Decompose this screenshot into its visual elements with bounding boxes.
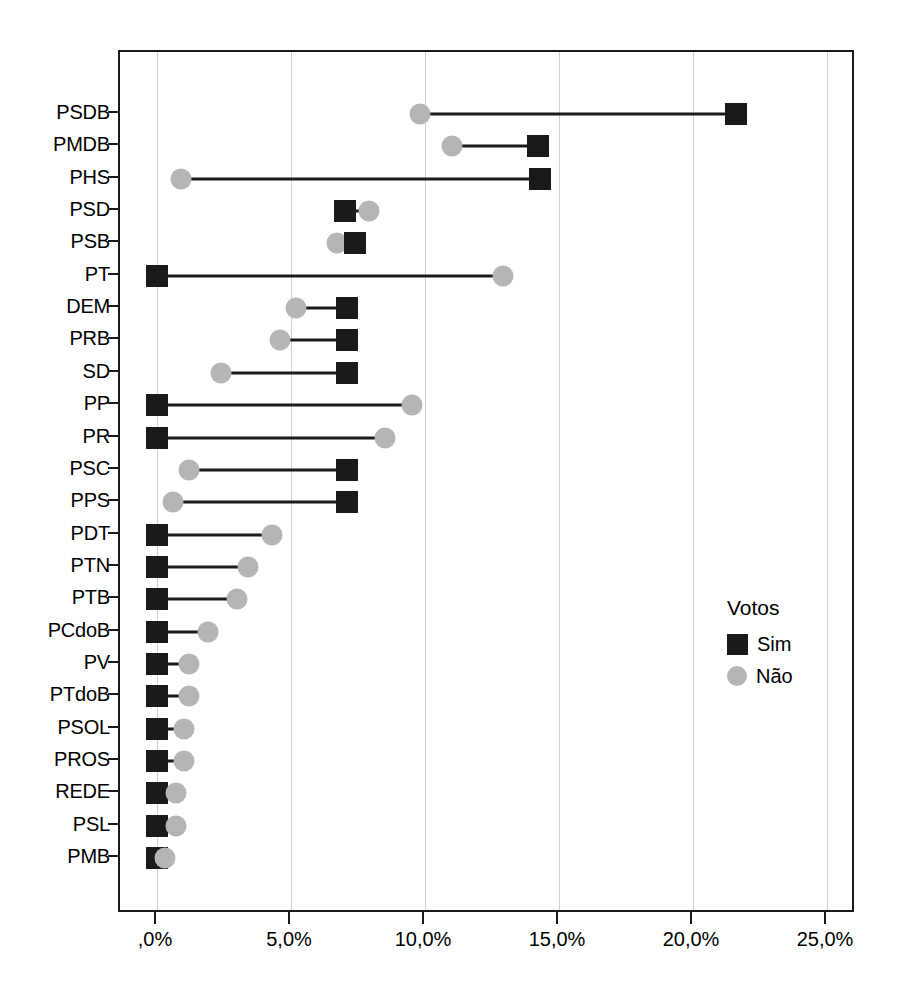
y-axis-label-pmb: PMB (67, 846, 110, 866)
square-marker-icon (727, 634, 748, 655)
data-point-sim (336, 329, 358, 351)
legend-title: Votos (727, 596, 877, 620)
dumbbell-chart: PSDBPMDBPHSPSDPSBPTDEMPRBSDPPPRPSCPPSPDT… (0, 0, 903, 988)
gridline (157, 52, 158, 910)
data-point-sim (146, 394, 168, 416)
y-axis-label-pps: PPS (71, 490, 110, 510)
connector-line (157, 598, 237, 601)
connector-line (173, 501, 347, 504)
y-axis-label-psl: PSL (73, 814, 110, 834)
y-axis-tick (108, 564, 118, 566)
connector-line (452, 145, 538, 148)
data-point-nao (227, 589, 248, 610)
connector-line (189, 468, 347, 471)
x-axis-tick (556, 912, 558, 924)
connector-line (157, 565, 248, 568)
y-axis-label-sd: SD (83, 361, 110, 381)
x-axis-label: 20,0% (663, 928, 720, 951)
y-axis-label-psd: PSD (69, 199, 110, 219)
data-point-nao (441, 136, 462, 157)
data-point-sim (146, 556, 168, 578)
data-point-sim (146, 750, 168, 772)
data-point-sim (336, 459, 358, 481)
data-point-nao (262, 524, 283, 545)
legend-label-sim: Sim (757, 633, 791, 656)
y-axis-tick (108, 208, 118, 210)
y-axis-label-pp: PP (84, 393, 110, 413)
y-axis-label-psdb: PSDB (56, 102, 110, 122)
y-axis-tick (108, 176, 118, 178)
gridline (827, 52, 828, 910)
data-point-sim (146, 718, 168, 740)
connector-line (181, 177, 540, 180)
y-axis-tick (108, 273, 118, 275)
plot-area (118, 50, 854, 912)
circle-marker-icon (727, 666, 747, 686)
data-point-nao (197, 621, 218, 642)
data-point-sim (336, 297, 358, 319)
data-point-sim (146, 427, 168, 449)
data-point-sim (336, 362, 358, 384)
legend-item-sim: Sim (727, 630, 877, 658)
gridline (425, 52, 426, 910)
y-axis-label-pdt: PDT (71, 523, 110, 543)
data-point-nao (165, 815, 186, 836)
y-axis-label-rede: REDE (55, 781, 110, 801)
data-point-nao (163, 492, 184, 513)
data-point-nao (270, 330, 291, 351)
y-axis-label-phs: PHS (69, 167, 110, 187)
connector-line (157, 533, 272, 536)
data-point-sim (336, 491, 358, 513)
y-axis-label-ptb: PTB (72, 587, 110, 607)
y-axis-tick (108, 337, 118, 339)
legend-item-nao: Não (727, 662, 877, 690)
y-axis-label-pros: PROS (54, 749, 110, 769)
data-point-sim (527, 135, 549, 157)
y-axis-tick (108, 305, 118, 307)
data-point-sim (146, 265, 168, 287)
data-point-nao (155, 848, 176, 869)
data-point-nao (374, 427, 395, 448)
data-point-sim (146, 588, 168, 610)
data-point-nao (211, 362, 232, 383)
data-point-sim (146, 524, 168, 546)
data-point-nao (358, 201, 379, 222)
connector-line (420, 113, 736, 116)
y-axis-tick (108, 467, 118, 469)
y-axis-label-pr: PR (83, 426, 110, 446)
y-axis-tick (108, 111, 118, 113)
y-axis-tick (108, 823, 118, 825)
data-point-sim (529, 168, 551, 190)
gridline (291, 52, 292, 910)
y-axis-label-dem: DEM (66, 296, 110, 316)
data-point-sim (146, 653, 168, 675)
data-point-nao (179, 686, 200, 707)
y-axis-tick (108, 855, 118, 857)
y-axis-tick (108, 790, 118, 792)
y-axis-tick (108, 532, 118, 534)
data-point-nao (165, 783, 186, 804)
connector-line (157, 274, 503, 277)
gridline (693, 52, 694, 910)
y-axis-tick (108, 499, 118, 501)
y-axis-tick (108, 402, 118, 404)
data-point-nao (179, 459, 200, 480)
y-axis-label-pmdb: PMDB (53, 134, 110, 154)
x-axis-tick (154, 912, 156, 924)
y-axis-tick (108, 758, 118, 760)
gridline (559, 52, 560, 910)
y-axis-tick (108, 693, 118, 695)
x-axis-tick (288, 912, 290, 924)
x-axis-tick (422, 912, 424, 924)
y-axis-label-pt: PT (85, 264, 110, 284)
y-axis-tick (108, 435, 118, 437)
y-axis-labels: PSDBPMDBPHSPSDPSBPTDEMPRBSDPPPRPSCPPSPDT… (0, 0, 110, 988)
x-axis-label: 25,0% (797, 928, 854, 951)
y-axis-tick (108, 726, 118, 728)
x-axis-label: 10,0% (395, 928, 452, 951)
data-point-nao (171, 168, 192, 189)
y-axis-tick (108, 240, 118, 242)
y-axis-tick (108, 596, 118, 598)
y-axis-label-psb: PSB (71, 231, 110, 251)
data-point-nao (409, 104, 430, 125)
